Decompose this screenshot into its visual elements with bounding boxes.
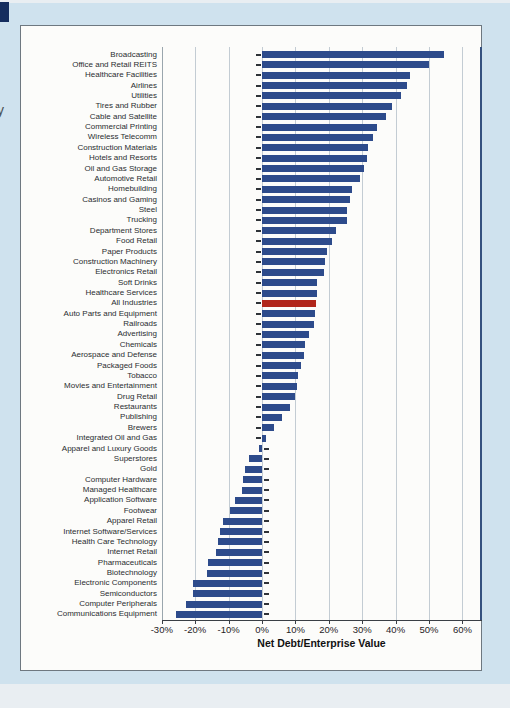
x-tick-label: 60%: [440, 624, 484, 635]
category-axis-tick: [256, 292, 261, 294]
category-axis-tick: [256, 168, 261, 170]
category-axis-tick: [256, 323, 261, 325]
gridline-20%: [329, 47, 330, 620]
category-label: Restaurants: [22, 402, 157, 412]
bar: [208, 559, 262, 566]
bar: [262, 404, 290, 411]
bar: [262, 124, 377, 131]
bar: [262, 134, 373, 141]
category-axis-tick: [256, 54, 261, 56]
category-axis-tick: [256, 427, 261, 429]
x-axis-line: [162, 620, 482, 621]
category-label: Superstores: [22, 454, 157, 464]
bar: [207, 570, 262, 577]
page: y -30%-20%-10%0%10%20%30%40%50%60%Broadc…: [0, 0, 510, 708]
bar: [262, 144, 368, 151]
bar: [223, 518, 262, 525]
category-label: Computer Hardware: [22, 475, 157, 485]
category-axis-tick: [256, 396, 261, 398]
bar: [262, 352, 304, 359]
category-label: Railroads: [22, 319, 157, 329]
gridline-30%: [362, 47, 363, 620]
category-label: Chemicals: [22, 340, 157, 350]
category-axis-tick: [264, 468, 269, 470]
bar: [262, 165, 364, 172]
category-axis-tick: [256, 251, 261, 253]
gridline-40%: [396, 47, 397, 620]
category-label: Wireless Telecomm: [22, 132, 157, 142]
category-axis-tick: [264, 510, 269, 512]
category-label: Homebuilding: [22, 184, 157, 194]
category-label: Cable and Satellite: [22, 112, 157, 122]
category-axis-tick: [256, 74, 261, 76]
category-axis-tick: [264, 562, 269, 564]
category-axis-tick: [256, 64, 261, 66]
category-label: Publishing: [22, 412, 157, 422]
category-axis-tick: [256, 365, 261, 367]
category-axis-tick: [256, 344, 261, 346]
bar: [262, 341, 305, 348]
category-label: Electronic Components: [22, 578, 157, 588]
category-axis-tick: [264, 499, 269, 501]
bar: [262, 310, 315, 317]
bar: [262, 217, 347, 224]
plot-right-border: [480, 47, 482, 621]
category-axis-tick: [256, 385, 261, 387]
bar: [262, 61, 429, 68]
bar: [262, 103, 392, 110]
bar: [262, 72, 410, 79]
category-label: Airlines: [22, 81, 157, 91]
category-axis-tick: [256, 375, 261, 377]
bar: [262, 248, 327, 255]
category-label: Broadcasting: [22, 50, 157, 60]
category-label: Trucking: [22, 215, 157, 225]
bar: [262, 435, 266, 442]
category-axis-tick: [256, 157, 261, 159]
category-axis-tick: [256, 136, 261, 138]
bar: [220, 528, 262, 535]
category-axis-tick: [256, 240, 261, 242]
category-axis-tick: [264, 572, 269, 574]
category-label: Electronics Retail: [22, 267, 157, 277]
bar: [186, 601, 262, 608]
category-label: Health Care Technology: [22, 537, 157, 547]
bar-highlight: [262, 300, 316, 307]
category-axis-tick: [256, 199, 261, 201]
bar: [262, 362, 301, 369]
category-label: Brewers: [22, 423, 157, 433]
category-axis-tick: [256, 209, 261, 211]
category-axis-tick: [256, 354, 261, 356]
bar: [262, 113, 386, 120]
bar: [262, 269, 324, 276]
bar: [262, 186, 352, 193]
bar: [262, 227, 336, 234]
bar: [262, 321, 314, 328]
category-axis-tick: [256, 302, 261, 304]
category-axis-tick: [256, 282, 261, 284]
x-axis-title: Net Debt/Enterprise Value: [162, 637, 481, 649]
category-axis-tick: [264, 551, 269, 553]
category-axis-tick: [264, 489, 269, 491]
category-axis-tick: [264, 479, 269, 481]
category-label: Apparel and Luxury Goods: [22, 444, 157, 454]
category-label: Tires and Rubber: [22, 101, 157, 111]
category-label: Packaged Foods: [22, 361, 157, 371]
category-axis-tick: [256, 437, 261, 439]
category-axis-tick: [256, 406, 261, 408]
category-axis-tick: [256, 333, 261, 335]
category-axis-tick: [256, 219, 261, 221]
category-label: All Industries: [22, 298, 157, 308]
category-axis-tick: [256, 85, 261, 87]
bar: [262, 258, 325, 265]
category-label: Healthcare Facilities: [22, 70, 157, 80]
gridline-50%: [429, 47, 430, 620]
gridline--30%: [162, 47, 163, 620]
category-label: Internet Software/Services: [22, 527, 157, 537]
category-axis-tick: [256, 105, 261, 107]
category-label: Drug Retail: [22, 392, 157, 402]
bar: [193, 580, 262, 587]
category-axis-tick: [264, 613, 269, 615]
category-label: Casinos and Gaming: [22, 195, 157, 205]
category-axis-tick: [264, 603, 269, 605]
bar: [216, 549, 262, 556]
